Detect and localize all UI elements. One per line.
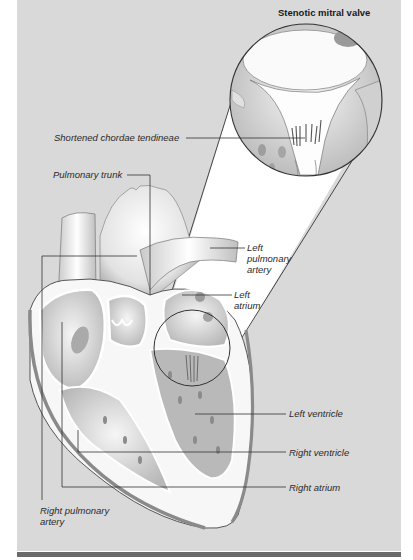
label-line-3: artery xyxy=(247,264,291,275)
label-right-pulmonary-artery: Right pulmonary artery xyxy=(40,505,109,527)
label-left-pulmonary-artery: Left pulmonary artery xyxy=(247,242,291,275)
label-pulmonary-trunk: Pulmonary trunk xyxy=(53,169,122,180)
label-right-atrium: Right atrium xyxy=(289,482,340,493)
heart-illustration xyxy=(0,0,413,560)
label-right-ventricle: Right ventricle xyxy=(289,447,349,458)
label-shortened-chordae-tendineae: Shortened chordae tendineae xyxy=(54,132,179,143)
label-left-ventricle: Left ventricle xyxy=(289,408,343,419)
label-line-2: pulmonary xyxy=(247,253,291,264)
label-line-2: artery xyxy=(40,516,109,527)
inset-title: Stenotic mitral valve xyxy=(278,7,370,18)
label-line-2: atrium xyxy=(234,300,260,311)
label-line-1: Right pulmonary xyxy=(40,505,109,516)
label-left-atrium: Left atrium xyxy=(234,289,260,311)
label-line-1: Left xyxy=(247,242,291,253)
label-line-1: Left xyxy=(234,289,260,300)
